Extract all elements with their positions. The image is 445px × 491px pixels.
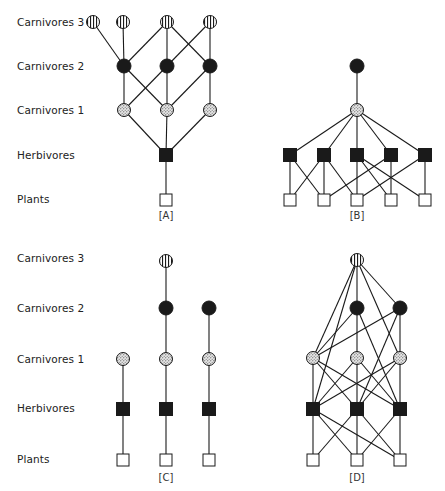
plant-node [385,194,397,206]
plant-node [117,454,129,466]
plant-node [284,194,296,206]
herbivore-node [318,149,331,162]
carnivore-1-node [118,104,131,117]
carnivore-1-node [307,352,320,365]
carnivore-2-node [350,59,364,73]
herbivore-node [351,149,364,162]
plant-node [203,454,215,466]
carnivore-3-node [117,16,130,29]
level-label-carnivores-1: Carnivores 1 [17,104,84,116]
plant-node [419,194,431,206]
herbivore-node [203,403,216,416]
plant-node [160,194,172,206]
level-label-carnivores-3: Carnivores 3 [17,252,84,264]
level-label-carnivores-1: Carnivores 1 [17,353,84,365]
herbivore-node [394,403,407,416]
plant-node [394,454,406,466]
carnivore-2-node [159,301,173,315]
food-web-diagrams [0,0,445,491]
carnivore-1-node [161,104,174,117]
level-label-plants: Plants [17,453,50,465]
plant-node [160,454,172,466]
carnivore-3-node [351,254,364,267]
feeding-link [167,66,210,110]
carnivore-3-node [87,16,100,29]
plant-node [307,454,319,466]
level-label-plants: Plants [17,193,50,205]
carnivore-1-node [351,352,364,365]
herbivore-node [385,149,398,162]
level-label-herbivores: Herbivores [17,402,75,414]
plant-node [351,454,363,466]
panel-label-b: [B] [350,210,365,221]
carnivore-1-node [117,353,130,366]
feeding-link [93,22,124,66]
panel-label-d: [D] [349,472,365,483]
level-label-carnivores-3: Carnivores 3 [17,16,84,28]
carnivore-2-node [350,301,364,315]
herbivore-node [307,403,320,416]
plant-node [351,194,363,206]
feeding-link [124,22,167,66]
carnivore-2-node [203,59,217,73]
herbivore-node [351,403,364,416]
nodes-layer [87,16,432,467]
carnivore-1-node [203,353,216,366]
feeding-link [357,260,400,308]
carnivore-3-node [160,255,173,268]
carnivore-2-node [393,301,407,315]
plant-node [318,194,330,206]
carnivore-1-node [204,104,217,117]
panel-b-edges [290,66,425,200]
panel-label-a: [A] [159,210,174,221]
herbivore-node [284,149,297,162]
panel-a-edges [93,22,210,200]
level-label-carnivores-2: Carnivores 2 [17,302,84,314]
carnivore-1-node [394,352,407,365]
herbivore-node [160,403,173,416]
herbivore-node [160,149,173,162]
herbivore-node [419,149,432,162]
feeding-link [313,308,357,358]
carnivore-1-node [160,353,173,366]
panel-a-nodes [87,16,218,207]
herbivore-node [117,403,130,416]
carnivore-2-node [117,59,131,73]
carnivore-2-node [202,301,216,315]
carnivore-3-node [161,16,174,29]
edges-layer [93,22,425,460]
carnivore-2-node [160,59,174,73]
level-label-carnivores-2: Carnivores 2 [17,60,84,72]
carnivore-3-node [204,16,217,29]
level-label-herbivores: Herbivores [17,149,75,161]
carnivore-1-node [351,104,364,117]
panel-label-c: [C] [159,472,174,483]
